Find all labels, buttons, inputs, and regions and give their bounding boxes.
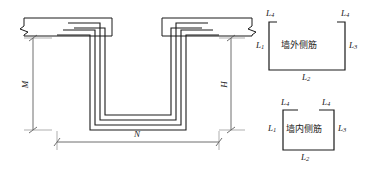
main-drawing-svg [0, 0, 376, 171]
outer-legend-label-L4-right: L4 [341, 9, 349, 19]
outer-legend-label-L3: L3 [349, 41, 357, 51]
inner-legend-label-L2: L2 [301, 153, 309, 163]
break-line-left [20, 18, 28, 36]
u-bar-1 [68, 23, 208, 120]
nested-u-bars [57, 23, 219, 130]
inner-legend-label-L3: L3 [338, 124, 346, 134]
u-bar-3 [63, 30, 213, 125]
inner-legend-label-L4-right: L4 [322, 98, 330, 108]
outer-legend-caption: 墙外侧筋 [281, 41, 317, 50]
inner-legend-caption: 墙内侧筋 [286, 125, 322, 134]
outer-legend-label-L2: L2 [302, 73, 310, 83]
haunch-left [47, 18, 112, 36]
inner-legend-label-L4-left: L4 [281, 98, 289, 108]
dim-label-N: N [134, 130, 140, 139]
break-line-right [248, 18, 256, 36]
u-bar-4 [57, 35, 219, 130]
inner-legend-label-L1: L1 [268, 124, 276, 134]
dim-label-M: M [21, 81, 30, 89]
dim-label-H: H [220, 81, 229, 88]
concrete-outline [20, 18, 256, 36]
outer-legend-label-L1: L1 [256, 41, 264, 51]
u-bar-2 [74, 28, 202, 115]
haunch-right [162, 18, 228, 36]
outer-legend-label-L4-left: L4 [266, 9, 274, 19]
drawing-canvas: M H N L4 L4 L1 L3 L2 墙外侧筋 L4 L4 L1 L3 L2… [0, 0, 376, 171]
